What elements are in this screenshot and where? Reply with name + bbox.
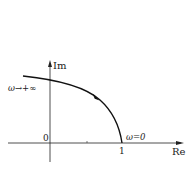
real-axis xyxy=(8,141,184,145)
nyquist-curve xyxy=(23,76,122,143)
re-tick-one-label: 1 xyxy=(119,147,125,156)
real-axis-arrow-icon xyxy=(176,141,184,145)
origin-label: 0 xyxy=(43,134,49,143)
omega-zero-label: ω=0 xyxy=(126,133,145,142)
nyquist-diagram: Im ω→+∞ 0 ω=0 1 Re xyxy=(0,0,192,182)
figure-caption xyxy=(20,166,150,170)
imag-axis-arrow-icon xyxy=(48,60,52,67)
im-axis-label: Im xyxy=(53,61,66,71)
imaginary-axis xyxy=(48,60,52,162)
re-axis-label: Re xyxy=(172,147,185,157)
omega-infinity-label: ω→+∞ xyxy=(8,84,36,93)
